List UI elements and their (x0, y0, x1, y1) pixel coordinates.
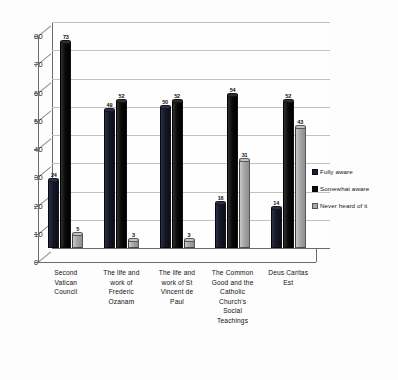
bar-body (227, 95, 238, 248)
bar: 3 (184, 240, 195, 248)
x-axis-category-label: Deus CaritasEst (256, 268, 320, 287)
category-label-line: The life and (145, 268, 209, 278)
bar-value-label: 3 (188, 232, 191, 238)
bar-group: 50523 (160, 22, 195, 248)
category-label-line: The life and (90, 268, 154, 278)
bar-top-ellipse (72, 232, 83, 236)
category-label-line: Catholic (201, 287, 265, 297)
bar-body (184, 240, 195, 248)
bar-value-label: 3 (132, 232, 135, 238)
bar-body (239, 160, 250, 248)
bar-body (48, 180, 59, 248)
bar-top-ellipse (271, 206, 282, 210)
bar-body (104, 110, 115, 248)
legend-item[interactable]: Never heard of it (312, 202, 396, 209)
legend-color-swatch (312, 203, 318, 209)
bar-chart: 01020304050607080 2473549523505231654311… (0, 0, 398, 380)
bar-top-ellipse (184, 238, 195, 242)
bar: 52 (283, 101, 294, 248)
chart-legend: Fully awareSomewhat awareNever heard of … (312, 168, 396, 219)
bar: 24 (48, 180, 59, 248)
bar-top-ellipse (239, 158, 250, 162)
bar-value-label: 16 (218, 195, 224, 201)
bar-value-label: 50 (162, 99, 168, 105)
bar-groups: 247354952350523165431145243 (38, 22, 330, 262)
category-label-line: Paul (145, 297, 209, 307)
bar: 14 (271, 208, 282, 248)
bar: 31 (239, 160, 250, 248)
x-axis-line (38, 262, 316, 263)
bar: 52 (116, 101, 127, 248)
bar-value-label: 31 (242, 152, 248, 158)
bar-top-ellipse (104, 108, 115, 112)
category-label-line: Ozanam (90, 297, 154, 307)
legend-item[interactable]: Fully aware (312, 168, 396, 175)
bar-value-label: 52 (174, 93, 180, 99)
bar: 73 (60, 42, 71, 248)
bar-group: 24735 (48, 22, 83, 248)
bar-value-label: 73 (63, 34, 69, 40)
bar: 43 (295, 127, 306, 248)
bar-group: 165431 (215, 22, 250, 248)
bar-group: 49523 (104, 22, 139, 248)
legend-item-label: Never heard of it (320, 202, 367, 209)
bar: 16 (215, 203, 226, 248)
bar-top-ellipse (215, 201, 226, 205)
legend-item-label: Fully aware (320, 168, 353, 175)
bar: 50 (160, 107, 171, 248)
bar-top-ellipse (295, 125, 306, 129)
bar-body (116, 101, 127, 248)
category-label-line: The Common (201, 268, 265, 278)
bar: 52 (172, 101, 183, 248)
category-label-line: Vatican (34, 278, 98, 288)
bar-body (160, 107, 171, 248)
bar-body (72, 234, 83, 248)
x-axis-category-label: The CommonGood and theCatholicChurch'sSo… (201, 268, 265, 325)
legend-color-swatch (312, 186, 318, 192)
bar: 3 (128, 240, 139, 248)
category-label-line: Church's (201, 297, 265, 307)
bar-body (271, 208, 282, 248)
legend-item-label: Somewhat aware (320, 185, 369, 192)
x-axis-category-label: SecondVaticanCouncil (34, 268, 98, 297)
bar-top-ellipse (60, 40, 71, 44)
category-label-line: Frederic (90, 287, 154, 297)
bar-value-label: 24 (51, 172, 57, 178)
bar-body (295, 127, 306, 248)
bar: 49 (104, 110, 115, 248)
bar-top-ellipse (172, 99, 183, 103)
bar-value-label: 49 (107, 102, 113, 108)
category-label-line: work of (90, 278, 154, 288)
bar-top-ellipse (48, 178, 59, 182)
bar-body (128, 240, 139, 248)
bar-value-label: 14 (273, 200, 279, 206)
category-label-line: Vincent de (145, 287, 209, 297)
bar-top-ellipse (283, 99, 294, 103)
bar-top-ellipse (227, 93, 238, 97)
bar-body (172, 101, 183, 248)
legend-color-swatch (312, 169, 318, 175)
category-label-line: Deus Caritas (256, 268, 320, 278)
bar-value-label: 52 (285, 93, 291, 99)
legend-item[interactable]: Somewhat aware (312, 185, 396, 192)
bar-value-label: 52 (119, 93, 125, 99)
bar-top-ellipse (116, 99, 127, 103)
category-label-line: work of St (145, 278, 209, 288)
plot-area: 01020304050607080 2473549523505231654311… (38, 22, 330, 262)
x-axis-category-label: The life andwork ofFredericOzanam (90, 268, 154, 306)
category-label-line: Second (34, 268, 98, 278)
bar-body (215, 203, 226, 248)
category-label-line: Teachings (201, 316, 265, 326)
bar: 54 (227, 95, 238, 248)
bar: 5 (72, 234, 83, 248)
bar-group: 145243 (271, 22, 306, 248)
bar-value-label: 43 (297, 119, 303, 125)
category-label-line: Council (34, 287, 98, 297)
bar-value-label: 54 (230, 87, 236, 93)
bar-value-label: 5 (76, 226, 79, 232)
category-label-line: Good and the (201, 278, 265, 288)
bar-top-ellipse (160, 105, 171, 109)
bar-top-ellipse (128, 238, 139, 242)
bar-body (283, 101, 294, 248)
category-label-line: Est (256, 278, 320, 288)
